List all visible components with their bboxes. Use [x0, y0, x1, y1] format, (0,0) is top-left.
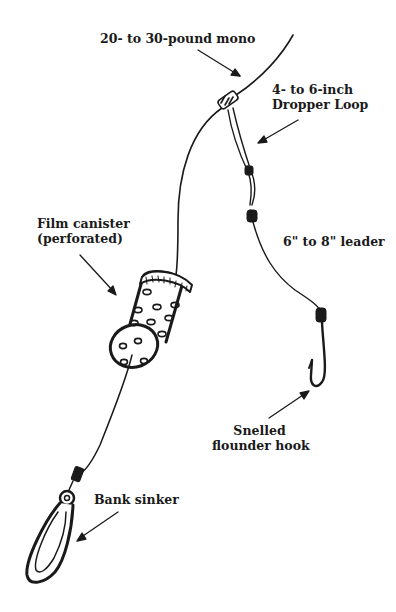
label-leader: 6" to 8" leader	[283, 234, 385, 249]
label-dropper-loop: 4- to 6-inch Dropper Loop	[272, 82, 368, 112]
leader-knot-icon	[247, 210, 257, 222]
snell-knot-icon	[316, 308, 326, 322]
dropper-loop	[228, 110, 251, 205]
label-hook-line2: flounder hook	[212, 438, 307, 453]
label-bank-sinker: Bank sinker	[94, 492, 179, 507]
arrow-hook	[269, 393, 306, 418]
film-canister-icon	[104, 271, 192, 374]
label-canister-line1: Film canister	[37, 216, 130, 231]
main-line-lower	[176, 108, 222, 275]
hook-icon	[311, 322, 325, 386]
label-film-canister: Film canister (perforated)	[37, 216, 130, 246]
fishing-rig-diagram: 20- to 30-pound mono 4- to 6-inch Droppe…	[0, 0, 396, 612]
label-mono: 20- to 30-pound mono	[100, 31, 255, 46]
arrows	[77, 50, 309, 541]
bank-sinker-icon	[27, 491, 74, 582]
arrow-sinker	[80, 512, 118, 538]
label-hook-line1: Snelled	[212, 423, 307, 438]
knot-icon	[217, 90, 239, 110]
label-canister-line2: (perforated)	[37, 231, 130, 246]
arrow-canister	[80, 255, 114, 292]
label-dropper-line2: Dropper Loop	[272, 97, 368, 112]
sinker-knot-icon	[71, 466, 84, 482]
label-dropper-line1: 4- to 6-inch	[272, 82, 368, 97]
sinker-line	[80, 355, 132, 474]
label-snelled-hook: Snelled flounder hook	[212, 423, 307, 453]
